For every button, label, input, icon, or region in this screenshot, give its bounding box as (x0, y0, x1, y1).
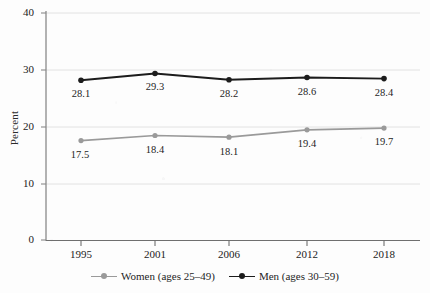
x-tick-1995: 1995 (57, 248, 105, 260)
data-label-women-1995: 17.5 (58, 149, 102, 160)
x-tick-2018: 2018 (360, 248, 408, 260)
legend-item-women: Women (ages 25–49) (91, 270, 215, 282)
y-tick-10: 10 (8, 177, 34, 189)
data-label-women-2006: 18.1 (207, 146, 251, 157)
data-label-men-2006: 28.2 (207, 88, 251, 99)
data-label-men-2018: 28.4 (362, 87, 406, 98)
legend-label-women: Women (ages 25–49) (121, 270, 215, 282)
legend-marker-men-icon (229, 272, 255, 281)
data-label-men-2012: 28.6 (285, 86, 329, 97)
x-tick-2006: 2006 (205, 248, 253, 260)
y-tick-0: 0 (8, 233, 34, 245)
series-men (78, 71, 387, 83)
y-tick-20: 20 (8, 120, 34, 132)
data-label-women-2001: 18.4 (133, 144, 177, 155)
data-label-women-2012: 19.4 (285, 138, 329, 149)
chart-figure: Percent 40 30 20 10 0 1995 2001 2006 201… (0, 0, 430, 293)
legend-item-men: Men (ages 30–59) (229, 270, 339, 282)
data-label-men-2001: 29.3 (133, 81, 177, 92)
x-tick-2012: 2012 (283, 248, 331, 260)
legend-label-men: Men (ages 30–59) (259, 270, 339, 282)
chart-legend: Women (ages 25–49) Men (ages 30–59) (0, 270, 430, 282)
y-tick-30: 30 (8, 63, 34, 75)
x-tick-2001: 2001 (131, 248, 179, 260)
y-tick-40: 40 (8, 6, 34, 18)
series-women (78, 126, 386, 144)
data-label-women-2018: 19.7 (362, 136, 406, 147)
legend-marker-women-icon (91, 272, 117, 281)
data-label-men-1995: 28.1 (59, 88, 103, 99)
